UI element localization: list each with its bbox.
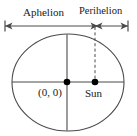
origin-coordinate-label: (0, 0) (38, 87, 62, 98)
orbit-diagram-canvas (0, 0, 137, 136)
origin-point-dot (64, 79, 71, 86)
sun-label: Sun (85, 88, 102, 99)
sun-point-dot (92, 79, 99, 86)
aphelion-label: Aphelion (23, 7, 64, 18)
perihelion-label: Perihelion (79, 6, 122, 17)
orbit-diagram-figure: Aphelion Perihelion (0, 0) Sun (0, 0, 137, 136)
